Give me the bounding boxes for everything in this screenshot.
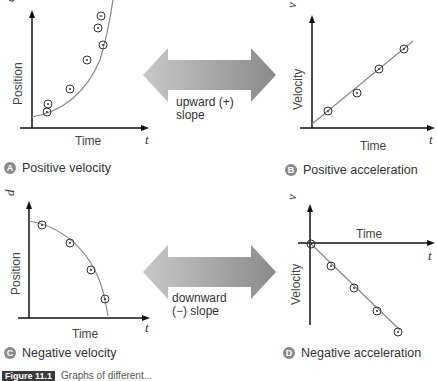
t-axis-label: t xyxy=(428,248,432,263)
caption-d-text: Negative acceleration xyxy=(301,346,421,360)
caption-b: B Positive acceleration xyxy=(285,163,418,177)
caption-d: D Negative acceleration xyxy=(283,346,421,360)
vector-v-label: v xyxy=(284,2,299,8)
caption-a-text: Positive velocity xyxy=(22,161,111,175)
panel-d-labels: v Velocity Time t xyxy=(280,190,437,350)
vector-d-label: d xyxy=(2,189,17,196)
caption-c-text: Negative velocity xyxy=(22,346,117,360)
badge-b-icon: B xyxy=(285,164,297,176)
t-axis-label: t xyxy=(429,132,433,147)
vector-v-label: v xyxy=(284,194,299,200)
vector-d-label: d xyxy=(2,0,17,2)
slope-label-upward: upward (+) slope xyxy=(176,96,234,122)
caption-b-text: Positive acceleration xyxy=(303,163,418,177)
caption-c: C Negative velocity xyxy=(4,346,117,360)
panel-c-labels: d Position Time t xyxy=(0,190,150,330)
x-axis-label: Time xyxy=(72,327,99,341)
x-axis-label: Time xyxy=(360,139,387,153)
badge-a-icon: A xyxy=(4,162,16,174)
panel-b-labels: v Velocity Time t xyxy=(280,0,437,160)
panel-d-velocity-graph: v Velocity Time t xyxy=(280,190,437,350)
y-axis-label: Velocity xyxy=(289,264,303,305)
figure-caption: Figure 11.1 Graphs of different... xyxy=(2,370,152,381)
panel-c-position-graph: d Position Time t xyxy=(0,190,150,330)
slope-line2: slope xyxy=(176,109,234,122)
slope-label-downward: downward (−) slope xyxy=(172,292,227,318)
y-axis-label: Position xyxy=(11,62,25,105)
slope-line2: (−) slope xyxy=(172,305,227,318)
x-axis-label: Time xyxy=(75,134,102,148)
t-axis-label: t xyxy=(145,320,149,335)
caption-a: A Positive velocity xyxy=(4,161,111,175)
x-axis-label: Time xyxy=(356,227,383,241)
panel-a-labels: d Position Time t xyxy=(0,0,140,160)
t-axis-label: t xyxy=(145,132,149,147)
y-axis-label: Velocity xyxy=(291,69,305,110)
figure-tag: Figure 11.1 xyxy=(2,371,55,381)
badge-c-icon: C xyxy=(4,347,16,359)
panel-b-velocity-graph: v Velocity Time t xyxy=(280,0,437,160)
badge-d-icon: D xyxy=(283,347,295,359)
figure-caption-text: Graphs of different... xyxy=(61,370,152,381)
panel-a-position-graph: d Position Time t xyxy=(0,0,140,160)
y-axis-label: Position xyxy=(9,252,23,295)
